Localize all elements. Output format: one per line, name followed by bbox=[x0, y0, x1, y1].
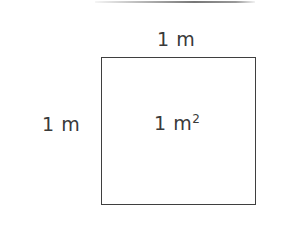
diagram-canvas: 1 m 1 m 1 m2 bbox=[0, 0, 301, 233]
area-label-exponent: 2 bbox=[192, 112, 200, 126]
area-label-value: 1 m bbox=[154, 112, 192, 134]
page-top-rule bbox=[95, 1, 255, 3]
area-label: 1 m2 bbox=[154, 114, 200, 133]
top-side-length-label: 1 m bbox=[157, 30, 195, 49]
left-side-length-label: 1 m bbox=[42, 115, 80, 134]
